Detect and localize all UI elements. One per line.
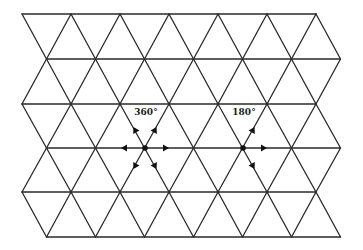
diagonal-line [169, 14, 194, 59]
diagonal-line [47, 148, 72, 192]
diagonal-line [71, 192, 96, 237]
diagonal-line [96, 14, 121, 59]
arrow-up-right-icon [151, 127, 157, 134]
diagonal-line [267, 148, 292, 192]
arrow-left-icon [121, 144, 127, 151]
diagonal-line [267, 192, 292, 237]
arrow-down-right-icon [249, 162, 255, 169]
arrow-right-icon [163, 144, 169, 151]
arrow-down-right-icon [151, 162, 157, 169]
diagonal-line [22, 59, 47, 104]
diagonal-line [194, 192, 219, 237]
diagonal-line [292, 104, 317, 148]
diagonal-line [267, 59, 292, 104]
diagonal-line [120, 59, 145, 104]
center-node-rotation-360 [142, 145, 148, 151]
diagonal-line [47, 192, 72, 237]
diagonal-line [194, 148, 219, 192]
diagonal-line [292, 192, 317, 237]
triangle-grid [22, 14, 341, 237]
diagonal-line [120, 192, 145, 237]
center-node-rotation-180 [240, 145, 246, 151]
label-360: 360° [134, 107, 157, 117]
diagonal-line [22, 104, 47, 148]
diagonal-line [292, 59, 317, 104]
diagonal-line [243, 59, 268, 104]
triangular-lattice-diagram: 360° 180° [0, 0, 363, 250]
diagonal-line [316, 148, 341, 192]
diagonal-line [96, 192, 121, 237]
arrow-right-icon [261, 144, 267, 151]
diagonal-line [120, 14, 145, 59]
diagonal-line [71, 104, 96, 148]
diagonal-line [292, 14, 317, 59]
diagonal-line [243, 14, 268, 59]
diagonal-line [218, 192, 243, 237]
diagonal-line [96, 59, 121, 104]
diagonal-line [243, 148, 268, 192]
diagonal-line [96, 148, 121, 192]
diagonal-line [169, 192, 194, 237]
diagonal-line [316, 104, 341, 148]
diagonal-line [145, 59, 170, 104]
diagonal-line [120, 148, 145, 192]
diagonal-line [47, 59, 72, 104]
diagonal-line [145, 148, 170, 192]
diagonal-line [292, 148, 317, 192]
diagonal-line [316, 14, 341, 59]
diagonal-line [145, 14, 170, 59]
diagonal-line [145, 192, 170, 237]
diagonal-line [47, 104, 72, 148]
diagonal-line [316, 192, 341, 237]
diagonal-line [218, 14, 243, 59]
diagonal-line [218, 148, 243, 192]
diagonal-line [218, 59, 243, 104]
diagonal-line [243, 192, 268, 237]
label-180: 180° [232, 107, 255, 117]
diagonal-line [22, 148, 47, 192]
diagonal-line [96, 104, 121, 148]
diagonal-line [22, 14, 47, 59]
diagonal-line [169, 148, 194, 192]
diagonal-line [194, 104, 219, 148]
diagonal-line [71, 59, 96, 104]
arrow-up-right-icon [249, 127, 255, 134]
diagonal-line [169, 104, 194, 148]
diagonal-line [267, 104, 292, 148]
diagonal-line [71, 148, 96, 192]
diagonal-line [194, 59, 219, 104]
diagonal-line [22, 192, 47, 237]
diagonal-line [316, 59, 341, 104]
diagonal-line [194, 14, 219, 59]
diagonal-line [267, 14, 292, 59]
diagonal-line [71, 14, 96, 59]
diagonal-line [47, 14, 72, 59]
diagonal-line [169, 59, 194, 104]
